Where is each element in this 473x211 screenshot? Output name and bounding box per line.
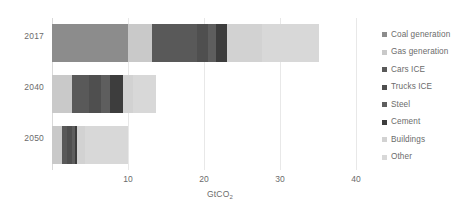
category-label-2017: 2017 bbox=[0, 31, 44, 41]
bar-segment-2017-trucks-ice[interactable] bbox=[197, 24, 208, 62]
bar-segment-2040-steel[interactable] bbox=[101, 75, 110, 113]
legend-swatch-icon bbox=[382, 155, 387, 160]
bar-2017[interactable] bbox=[52, 24, 319, 62]
category-label-2050: 2050 bbox=[0, 133, 44, 143]
bar-segment-2040-cars-ice[interactable] bbox=[72, 75, 89, 113]
bar-segment-2017-steel[interactable] bbox=[208, 24, 216, 62]
bar-segment-2040-gas-generation[interactable] bbox=[52, 75, 72, 113]
bar-segment-2017-gas-generation[interactable] bbox=[128, 24, 152, 62]
bar-2050[interactable] bbox=[52, 126, 128, 164]
x-tick-label-10: 10 bbox=[113, 174, 143, 184]
x-axis-title: GtCO2 bbox=[160, 189, 280, 199]
legend-label: Steel bbox=[391, 101, 410, 109]
bar-segment-2050-buildings[interactable] bbox=[77, 126, 85, 164]
bar-segment-2040-trucks-ice[interactable] bbox=[89, 75, 101, 113]
legend-label: Gas generation bbox=[391, 48, 448, 56]
bar-2040[interactable] bbox=[52, 75, 156, 113]
gridline-40 bbox=[356, 18, 357, 170]
legend-label: Trucks ICE bbox=[391, 83, 432, 91]
bar-segment-2017-other[interactable] bbox=[262, 24, 320, 62]
x-tick-label-30: 30 bbox=[265, 174, 295, 184]
category-label-2040: 2040 bbox=[0, 82, 44, 92]
legend-label: Cars ICE bbox=[391, 66, 425, 74]
bar-segment-2017-cars-ice[interactable] bbox=[152, 24, 197, 62]
legend-swatch-icon bbox=[382, 102, 387, 107]
legend-item-steel[interactable]: Steel bbox=[382, 96, 472, 114]
legend-item-buildings[interactable]: Buildings bbox=[382, 131, 472, 149]
plot-area bbox=[52, 18, 356, 170]
legend-swatch-icon bbox=[382, 137, 387, 142]
legend-label: Cement bbox=[391, 118, 420, 126]
bar-segment-2040-other[interactable] bbox=[133, 75, 156, 113]
legend-label: Buildings bbox=[391, 136, 425, 144]
legend-swatch-icon bbox=[382, 32, 387, 37]
stacked-bar-chart: 2017 2040 2050 10203040 GtCO2 Coal gener… bbox=[0, 0, 473, 211]
legend-item-gas-generation[interactable]: Gas generation bbox=[382, 44, 472, 62]
legend: Coal generationGas generationCars ICETru… bbox=[382, 26, 472, 166]
legend-swatch-icon bbox=[382, 50, 387, 55]
legend-item-cars-ice[interactable]: Cars ICE bbox=[382, 61, 472, 79]
x-axis-title-subscript: 2 bbox=[229, 194, 233, 200]
x-axis-title-text: GtCO bbox=[207, 189, 230, 199]
bar-segment-2017-cement[interactable] bbox=[216, 24, 227, 62]
legend-item-trucks-ice[interactable]: Trucks ICE bbox=[382, 79, 472, 97]
legend-item-coal-generation[interactable]: Coal generation bbox=[382, 26, 472, 44]
bar-segment-2040-buildings[interactable] bbox=[123, 75, 134, 113]
bar-segment-2017-buildings[interactable] bbox=[227, 24, 262, 62]
legend-item-cement[interactable]: Cement bbox=[382, 114, 472, 132]
legend-item-other[interactable]: Other bbox=[382, 149, 472, 167]
bar-segment-2040-cement[interactable] bbox=[110, 75, 122, 113]
bar-segment-2050-other[interactable] bbox=[85, 126, 128, 164]
legend-swatch-icon bbox=[382, 120, 387, 125]
bar-segment-2050-gas-generation[interactable] bbox=[52, 126, 62, 164]
legend-swatch-icon bbox=[382, 67, 387, 72]
legend-label: Coal generation bbox=[391, 31, 450, 39]
legend-label: Other bbox=[391, 153, 412, 161]
x-tick-label-40: 40 bbox=[341, 174, 371, 184]
legend-swatch-icon bbox=[382, 85, 387, 90]
x-tick-label-20: 20 bbox=[189, 174, 219, 184]
bar-segment-2017-coal-generation[interactable] bbox=[52, 24, 128, 62]
